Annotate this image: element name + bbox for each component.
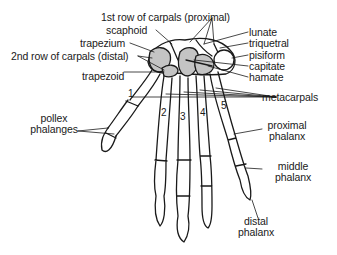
label-middle-phalanx: middle phalanx xyxy=(273,161,313,183)
label-hamate: hamate xyxy=(249,72,283,83)
leader-metacarpals xyxy=(132,88,276,97)
thumb-distal-phalanx xyxy=(101,128,116,151)
leader-pollex xyxy=(78,128,114,134)
label-trapezoid: trapezoid xyxy=(82,71,124,82)
thumb-metacarpal xyxy=(130,70,160,106)
leader-lunate xyxy=(204,32,248,44)
metacarpal-number-2: 2 xyxy=(161,107,167,118)
label-distal-line2: phalanx xyxy=(236,227,276,238)
label-second-row-carpals: 2nd row of carpals (distal) xyxy=(11,51,129,62)
label-triquetral: triquetral xyxy=(249,38,289,49)
leader-proximal xyxy=(234,129,262,134)
thumb-proximal-phalanx xyxy=(108,100,138,136)
label-scaphoid: scaphoid xyxy=(106,25,147,36)
label-proximal-phalanx: proximal phalanx xyxy=(262,120,312,142)
metacarpal-number-4: 4 xyxy=(200,107,206,118)
metacarpal-number-5: 5 xyxy=(221,100,227,111)
ring-finger xyxy=(196,76,212,228)
label-first-row-carpals: 1st row of carpals (proximal) xyxy=(101,12,230,23)
middle-finger xyxy=(177,76,192,242)
metacarpal-number-1: 1 xyxy=(128,88,134,99)
leader-trapezium xyxy=(130,43,154,52)
index-finger xyxy=(155,76,173,226)
leader-scaphoid xyxy=(156,30,172,44)
pisiform-bone xyxy=(214,50,234,70)
label-pollex-phalanges: pollex phalanges xyxy=(28,113,80,135)
metacarpal-number-3: 3 xyxy=(180,111,186,122)
leader-middle xyxy=(246,168,262,169)
label-trapezium: trapezium xyxy=(80,38,125,49)
label-middle-line2: phalanx xyxy=(273,172,313,183)
label-metacarpals: metacarpals xyxy=(262,92,318,103)
label-distal-phalanx: distal phalanx xyxy=(236,216,276,238)
label-proximal-line2: phalanx xyxy=(262,131,312,142)
hand-bones-diagram: 1st row of carpals (proximal) scaphoid t… xyxy=(0,0,337,255)
trapezoid-bone xyxy=(162,65,178,77)
label-pollex-line2: phalanges xyxy=(28,124,80,135)
